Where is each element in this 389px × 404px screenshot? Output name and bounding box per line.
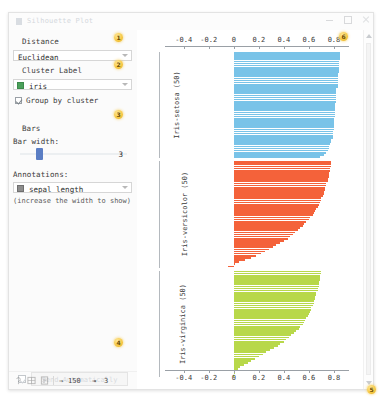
x-axis-bottom: -0.4-0.200.20.40.60.8	[137, 369, 373, 385]
cluster-group: Iris-virginica (50)	[137, 271, 365, 377]
cluster-label-value: iris	[29, 82, 47, 91]
widget-icon	[16, 18, 22, 25]
x-tick	[234, 46, 235, 49]
status-bar: → 150 ⇥ 3	[9, 371, 137, 389]
cluster-color-swatch	[17, 82, 24, 89]
silhouette-bar	[228, 266, 234, 268]
chevron-down-icon	[122, 83, 128, 86]
x-tick-label: 0.6	[303, 374, 316, 382]
report-icon[interactable]	[27, 376, 36, 385]
bar-width-label: Bar width:	[13, 137, 59, 146]
slider-handle[interactable]	[36, 148, 43, 160]
window-title-bar: Silhouette Plot	[9, 13, 373, 31]
distance-label: Distance	[22, 37, 59, 46]
group-by-cluster-checkbox[interactable]	[15, 97, 22, 104]
minimize-icon[interactable]	[326, 16, 333, 23]
x-tick-label: 0.4	[278, 36, 291, 44]
annotations-combo[interactable]: sepal length	[13, 182, 132, 193]
bar-width-slider[interactable]: 3	[20, 148, 127, 160]
distance-combo[interactable]: Euclidean	[13, 50, 132, 61]
annotations-label: Annotations:	[13, 170, 68, 179]
silhouette-plot-window: Silhouette Plot Distance Euclidean Clust…	[8, 12, 374, 390]
input-count: 150	[68, 377, 81, 385]
badge-send: 4	[114, 338, 123, 347]
x-tick	[334, 46, 335, 49]
cluster-group: Iris-setosa (50)	[137, 52, 365, 158]
x-tick	[184, 46, 185, 49]
x-tick	[209, 370, 210, 373]
scroll-up-icon[interactable]	[366, 34, 372, 38]
cluster-group: Iris-versicolor (50)	[137, 161, 365, 267]
badge-cluster-label: 2	[114, 60, 123, 69]
x-tick	[284, 46, 285, 49]
x-tick	[259, 370, 260, 373]
maximize-icon[interactable]	[344, 16, 351, 23]
axis-line	[165, 370, 349, 371]
x-tick-label: -0.4	[175, 374, 192, 382]
badge-distance: 1	[114, 33, 123, 42]
close-icon[interactable]	[362, 16, 369, 23]
badge-plot: 6	[339, 32, 348, 41]
x-tick-label: 0	[232, 36, 236, 44]
bar-width-value: 3	[118, 150, 123, 159]
cluster-bars[interactable]	[165, 161, 349, 267]
window-controls	[326, 16, 369, 23]
x-tick-label: 0.2	[253, 36, 266, 44]
group-by-cluster-label: Group by cluster	[26, 96, 98, 105]
x-tick-label: 0.2	[253, 374, 266, 382]
plot-vertical-scrollbar[interactable]	[363, 30, 373, 389]
silhouette-plot-canvas[interactable]: -0.4-0.200.20.40.60.8 Iris-setosa (50)Ir…	[137, 30, 373, 389]
badge-statusbar: 5	[367, 385, 376, 394]
x-tick	[259, 46, 260, 49]
group-axis-line	[159, 52, 160, 158]
scrollbar-thumb[interactable]	[366, 43, 371, 375]
group-axis-line	[159, 271, 160, 377]
window-title: Silhouette Plot	[27, 17, 93, 25]
silhouette-bar	[234, 156, 320, 158]
x-tick	[184, 370, 185, 373]
cluster-bars[interactable]	[165, 52, 349, 158]
control-pane: Distance Euclidean Cluster Label iris Gr…	[9, 30, 138, 389]
x-tick	[309, 46, 310, 49]
output-count: 3	[104, 377, 108, 385]
cluster-label-combo[interactable]: iris	[13, 79, 132, 90]
badge-bars: 3	[114, 110, 123, 119]
chevron-down-icon	[122, 186, 128, 189]
x-tick-label: -0.2	[200, 374, 217, 382]
distance-value: Euclidean	[18, 53, 59, 62]
x-tick	[334, 370, 335, 373]
x-axis-top: -0.4-0.200.20.40.60.8	[137, 36, 373, 52]
x-tick	[284, 370, 285, 373]
plot-groups: Iris-setosa (50)Iris-versicolor (50)Iris…	[137, 52, 365, 377]
group-axis-line	[159, 161, 160, 267]
help-icon[interactable]	[14, 376, 23, 385]
x-tick-label: -0.4	[175, 36, 192, 44]
cluster-bars[interactable]	[165, 271, 349, 377]
x-tick	[309, 370, 310, 373]
bars-label: Bars	[22, 124, 40, 133]
annotation-icon	[17, 185, 24, 192]
annotations-value: sepal length	[29, 185, 83, 194]
x-tick-label: 0.6	[303, 36, 316, 44]
cluster-label-label: Cluster Label	[22, 66, 82, 75]
x-tick-label: 0.4	[278, 374, 291, 382]
output-arrow-icon: ⇥	[92, 377, 96, 385]
silhouette-bar	[234, 263, 235, 265]
status-separator	[53, 376, 54, 385]
annotations-hint: (increase the width to show)	[13, 197, 131, 205]
input-arrow-icon: →	[59, 377, 63, 385]
axis-line	[165, 46, 349, 47]
x-tick-label: 0	[232, 374, 236, 382]
x-tick-label: 0.8	[328, 374, 341, 382]
x-tick	[209, 46, 210, 49]
x-tick	[234, 370, 235, 373]
snapshot-icon[interactable]	[40, 376, 49, 385]
chevron-down-icon	[122, 54, 128, 57]
x-tick-label: -0.2	[200, 36, 217, 44]
